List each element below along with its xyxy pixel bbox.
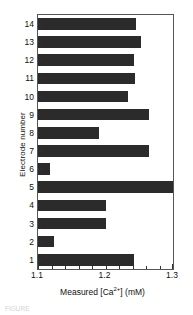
y-axis-title: Electrode number — [18, 65, 27, 225]
bar-row: 9 — [38, 106, 173, 124]
x-axis-title-post: ] (mM) — [120, 287, 145, 297]
y-tick-mark — [38, 42, 42, 43]
x-tick-minor — [119, 266, 120, 269]
y-axis-tick-label: 7 — [29, 147, 34, 156]
bar — [38, 73, 135, 85]
y-tick-mark — [38, 132, 42, 133]
y-tick-mark — [38, 78, 42, 79]
bar-row: 11 — [38, 69, 173, 87]
y-tick-mark — [38, 96, 42, 97]
y-axis-tick-label: 5 — [29, 183, 34, 192]
bar-row: 5 — [38, 178, 173, 196]
bar-row: 13 — [38, 33, 173, 51]
y-axis-tick-label: 10 — [25, 92, 34, 101]
y-axis-tick-label: 1 — [29, 256, 34, 265]
x-tick-minor — [52, 266, 53, 269]
bar — [38, 36, 141, 48]
y-tick-mark — [38, 241, 42, 242]
y-axis-tick-label: 11 — [25, 74, 34, 83]
bar — [38, 54, 134, 66]
y-axis-tick-label: 4 — [29, 201, 34, 210]
y-tick-mark — [38, 187, 42, 188]
y-tick-mark — [38, 259, 42, 260]
plot-area: 1234567891011121314 — [37, 14, 174, 270]
x-tick-major — [38, 264, 39, 269]
bar — [38, 18, 136, 30]
y-axis-tick-label: 12 — [25, 56, 34, 65]
y-axis-tick-label: 3 — [29, 219, 34, 228]
x-axis-tick-label: 1.1 — [31, 271, 43, 280]
y-tick-mark — [38, 151, 42, 152]
bar-row: 6 — [38, 160, 173, 178]
y-axis-tick-label: 6 — [29, 165, 34, 174]
bar-row: 8 — [38, 124, 173, 142]
bar-row: 4 — [38, 196, 173, 214]
y-axis-tick-label: 13 — [25, 38, 34, 47]
bar — [38, 91, 128, 103]
y-tick-mark — [38, 114, 42, 115]
y-tick-mark — [38, 24, 42, 25]
y-axis-tick-label: 14 — [25, 20, 34, 29]
y-tick-mark — [38, 169, 42, 170]
figure-caption: FIGURE — [5, 305, 125, 313]
x-tick-minor — [79, 266, 80, 269]
figure-container: Electrode number 1234567891011121314 1.1… — [0, 0, 193, 315]
x-tick-minor — [160, 266, 161, 269]
x-axis-tick-label: 1.2 — [99, 271, 111, 280]
x-tick-major — [172, 264, 173, 269]
x-tick-minor — [133, 266, 134, 269]
y-axis-tick-label: 8 — [29, 129, 34, 138]
y-tick-mark — [38, 205, 42, 206]
bar — [38, 145, 149, 157]
y-axis-tick-label: 2 — [29, 238, 34, 247]
bar — [38, 127, 99, 139]
x-tick-minor — [146, 266, 147, 269]
bar — [38, 218, 106, 230]
x-tick-minor — [65, 266, 66, 269]
x-tick-minor — [92, 266, 93, 269]
bar-row: 3 — [38, 215, 173, 233]
bar — [38, 109, 149, 121]
bar — [38, 200, 106, 212]
bar — [38, 181, 173, 193]
y-tick-mark — [38, 223, 42, 224]
bar-row: 14 — [38, 15, 173, 33]
bar-row: 2 — [38, 233, 173, 251]
bar-row: 12 — [38, 51, 173, 69]
y-axis-tick-label: 9 — [29, 111, 34, 120]
y-tick-mark — [38, 60, 42, 61]
x-axis-tick-label: 1.3 — [166, 271, 178, 280]
x-tick-major — [106, 264, 107, 269]
bar — [38, 254, 134, 266]
x-axis-title-pre: Measured [Ca — [60, 287, 113, 297]
bar-row: 7 — [38, 142, 173, 160]
bar-row: 10 — [38, 88, 173, 106]
x-axis-title: Measured [Ca2+] (mM) — [20, 287, 185, 297]
